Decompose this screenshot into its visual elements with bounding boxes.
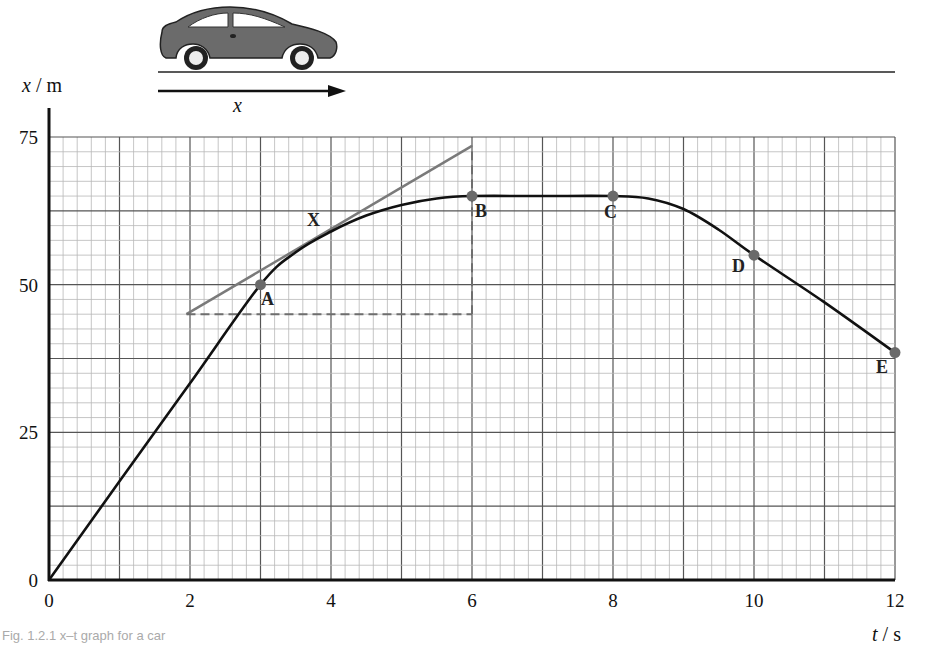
svg-text:4: 4 bbox=[326, 590, 336, 611]
point-b bbox=[467, 191, 478, 202]
svg-text:0: 0 bbox=[29, 570, 39, 591]
point-label-b: B bbox=[475, 201, 487, 221]
point-c bbox=[608, 191, 619, 202]
svg-text:8: 8 bbox=[608, 590, 618, 611]
grid bbox=[49, 137, 895, 580]
point-label-x: X bbox=[307, 210, 320, 230]
svg-text:0: 0 bbox=[44, 590, 54, 611]
point-d bbox=[749, 250, 760, 261]
displacement-arrow-label: x bbox=[232, 94, 242, 116]
svg-text:t / s: t / s bbox=[872, 623, 901, 645]
point-e bbox=[890, 347, 901, 358]
svg-text:6: 6 bbox=[467, 590, 477, 611]
point-label-c: C bbox=[604, 202, 617, 222]
point-label-a: A bbox=[261, 289, 274, 309]
svg-text:25: 25 bbox=[19, 422, 38, 443]
x-axis-label: t / s bbox=[872, 623, 901, 645]
car-icon bbox=[160, 7, 336, 70]
y-axis-label: x / m bbox=[21, 74, 62, 96]
point-label-e: E bbox=[876, 357, 888, 377]
car-illustration: x bbox=[158, 7, 895, 116]
svg-text:x / m: x / m bbox=[21, 74, 62, 96]
displacement-arrow bbox=[158, 85, 346, 97]
svg-text:75: 75 bbox=[19, 127, 38, 148]
y-tick-labels: 0255075 bbox=[19, 127, 38, 591]
svg-text:2: 2 bbox=[185, 590, 195, 611]
x-tick-labels: 024681012 bbox=[44, 590, 904, 611]
xt-graph: x 0255075 024681012 x / m t / s A B C D … bbox=[0, 0, 934, 645]
svg-text:10: 10 bbox=[745, 590, 764, 611]
tangent-line bbox=[186, 146, 472, 314]
svg-text:50: 50 bbox=[19, 275, 38, 296]
point-label-d: D bbox=[732, 256, 745, 276]
svg-text:12: 12 bbox=[886, 590, 905, 611]
figure-caption: Fig. 1.2.1 x–t graph for a car bbox=[2, 628, 165, 643]
